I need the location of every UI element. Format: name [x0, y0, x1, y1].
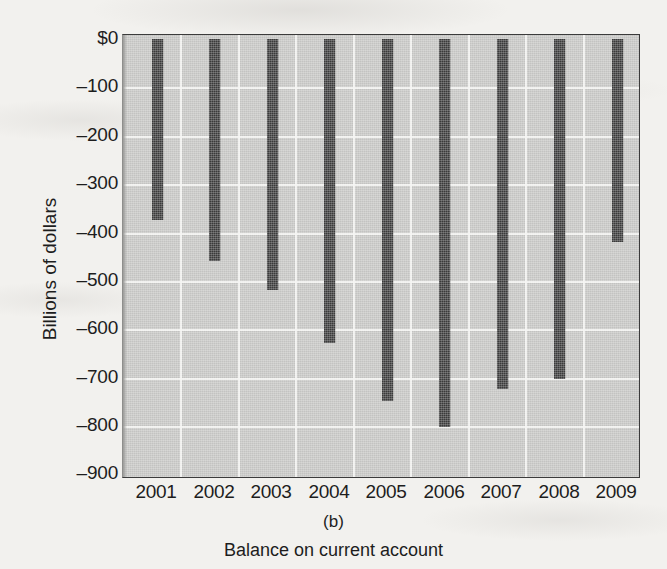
- bar-2009[interactable]: [612, 39, 623, 242]
- panel-label: (b): [0, 512, 667, 532]
- figure-caption: Balance on current account: [0, 540, 667, 561]
- bar-2008[interactable]: [554, 39, 565, 379]
- y-axis-tick-100: –100: [0, 75, 118, 97]
- y-axis-tick-0: $0: [0, 27, 118, 49]
- x-axis-tick-labels: 2001 2002 2003 2004 2005 2006 2007 2008 …: [122, 481, 640, 507]
- current-account-balance-chart: $0 –100 –200 –300 –400 –500 –600 –700 –8…: [0, 0, 667, 569]
- bar-2004[interactable]: [324, 39, 335, 343]
- gridline-v-4: [353, 35, 355, 477]
- gridline-v-2: [238, 35, 240, 477]
- plot-area: [122, 34, 640, 478]
- gridline-v-5: [410, 35, 412, 477]
- bar-2007[interactable]: [497, 39, 508, 389]
- gridline-v-3: [295, 35, 297, 477]
- x-axis-tick-2009: 2009: [581, 481, 651, 503]
- bar-2003[interactable]: [267, 39, 278, 290]
- bar-2001[interactable]: [152, 39, 163, 220]
- y-axis-title: Billions of dollars: [39, 119, 61, 419]
- gridline-v-8: [583, 35, 585, 477]
- gridline-h-800: [123, 426, 639, 428]
- gridline-v-6: [468, 35, 470, 477]
- bar-2005[interactable]: [382, 39, 393, 401]
- plot-left-shadow: [123, 35, 127, 477]
- bar-2002[interactable]: [209, 39, 220, 261]
- gridline-v-7: [525, 35, 527, 477]
- gridline-v-1: [180, 35, 182, 477]
- y-axis-tick-900: –900: [0, 462, 118, 484]
- bar-2006[interactable]: [439, 39, 450, 427]
